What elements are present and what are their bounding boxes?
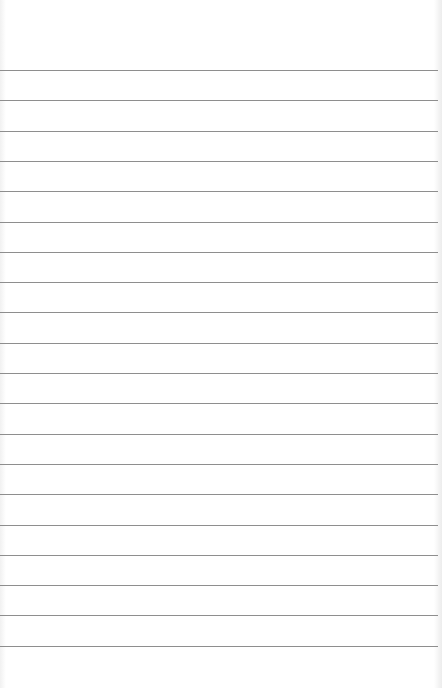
ruled-line — [0, 343, 438, 344]
ruled-line — [0, 282, 438, 283]
ruled-line — [0, 222, 438, 223]
ruled-line — [0, 555, 438, 556]
ruled-line — [0, 100, 438, 101]
lined-paper-page — [0, 0, 442, 688]
ruled-line — [0, 252, 438, 253]
ruled-line — [0, 403, 438, 404]
ruled-line — [0, 464, 438, 465]
ruled-line — [0, 70, 438, 71]
ruled-line — [0, 615, 438, 616]
ruled-line — [0, 585, 438, 586]
ruled-line — [0, 646, 438, 647]
ruled-line — [0, 525, 438, 526]
ruled-line — [0, 373, 438, 374]
ruled-line — [0, 131, 438, 132]
ruled-line — [0, 494, 438, 495]
ruled-line — [0, 161, 438, 162]
ruled-line — [0, 312, 438, 313]
ruled-line — [0, 191, 438, 192]
ruled-line — [0, 434, 438, 435]
